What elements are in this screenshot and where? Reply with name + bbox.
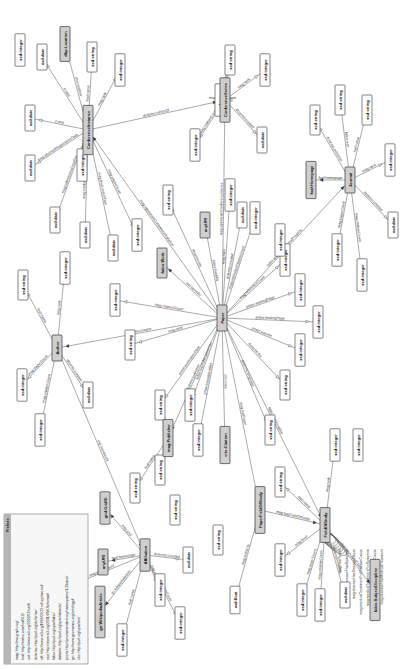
literal-node[interactable]: xsd:integer	[132, 219, 142, 251]
literal-node[interactable]: xsd:integer	[185, 389, 195, 421]
literal-node[interactable]: xsd:date	[388, 212, 398, 238]
literal-node[interactable]: xsd:date	[183, 547, 193, 573]
class-node[interactable]: cito:Citation	[220, 426, 230, 463]
literal-node[interactable]: xsd:integer	[250, 202, 260, 234]
literal-node[interactable]: xsd:integer	[175, 607, 185, 639]
literal-node[interactable]: xsd:string	[18, 270, 28, 300]
node-label: xsd:string	[216, 530, 221, 550]
literal-node[interactable]: xsd:date	[50, 207, 60, 233]
edge-label: fabio:hasURL	[212, 260, 220, 282]
literal-node[interactable]: xsd:date	[237, 202, 247, 228]
class-node[interactable]: Paper	[217, 305, 227, 331]
edge-label: dbo:location	[74, 77, 83, 97]
class-node[interactable]: grid:GridID	[100, 492, 110, 524]
literal-node[interactable]: xsd:integer	[190, 129, 200, 161]
class-node[interactable]: fabio:SubjectDiscipline	[370, 559, 380, 620]
literal-node[interactable]: xsd:integer	[297, 584, 307, 616]
literal-node[interactable]: xsd:string	[130, 473, 140, 503]
literal-node[interactable]: xsd:integer	[260, 54, 270, 86]
arrow-head-icon	[140, 477, 143, 480]
class-node[interactable]: gn:WikipediaArticle	[95, 586, 105, 638]
literal-node[interactable]: xsd:integer	[193, 424, 203, 456]
edge-label: mag:rank	[237, 77, 252, 89]
class-node[interactable]: anyURI	[200, 212, 210, 238]
literal-node[interactable]: xsd:string	[310, 105, 320, 135]
literal-node[interactable]: xsd:date	[25, 155, 35, 181]
edge-label: dcterms:created	[154, 552, 180, 559]
prefix-line: gn: http://www.geonames.org/ontology#	[71, 598, 75, 660]
literal-node[interactable]: xsd:integer	[35, 414, 45, 446]
literal-node[interactable]: xsd:integer	[315, 589, 325, 621]
literal-node[interactable]: xsd:integer	[353, 429, 363, 461]
literal-node[interactable]: xsd:integer	[117, 624, 127, 656]
literal-node[interactable]: xsd:string	[362, 95, 372, 125]
literal-node[interactable]: xsd:integer	[313, 306, 323, 338]
literal-node[interactable]: xsd:string	[265, 415, 275, 445]
literal-node[interactable]: xsd:integer	[115, 54, 125, 86]
class-node[interactable]: foaf:Homepage	[306, 161, 316, 198]
class-node[interactable]: ConferenceSeries	[220, 78, 230, 122]
literal-node[interactable]: xsd:integer	[385, 144, 395, 176]
literal-node[interactable]: xsd:string	[335, 85, 345, 115]
literal-node[interactable]: xsd:integer	[110, 284, 120, 316]
node-label: xsd:integer	[335, 239, 340, 261]
literal-node[interactable]: xsd:integer	[295, 334, 305, 366]
edge-label: mag:hasPaper	[239, 402, 248, 426]
class-node[interactable]: fabio:Work	[157, 248, 167, 278]
literal-node[interactable]: xsd:integer	[225, 179, 235, 211]
literal-node[interactable]: xsd:string	[170, 495, 180, 525]
arrow-head-icon	[80, 384, 83, 387]
literal-node[interactable]: xsd:date	[25, 105, 35, 131]
literal-node[interactable]: xsd:integer	[275, 544, 285, 576]
literal-node[interactable]: xsd:string	[155, 455, 165, 485]
arrow-head-icon	[106, 602, 109, 605]
arrow-head-icon	[306, 320, 309, 323]
literal-node[interactable]: xsd:integer	[332, 234, 342, 266]
node-label: xsd:float	[233, 591, 238, 608]
literal-node[interactable]: xsd:string	[213, 525, 223, 555]
literal-node[interactable]: xsd:string	[225, 45, 235, 75]
literal-node[interactable]: xsd:date	[83, 382, 93, 408]
node-label: xsd:date	[260, 131, 265, 148]
node-label: xsd:date	[391, 216, 396, 233]
prefixes-title: Prefixes	[6, 518, 10, 532]
class-node[interactable]: Affiliation	[140, 539, 150, 571]
literal-node[interactable]: xsd:date	[340, 582, 350, 608]
literal-node[interactable]: xsd:date	[257, 127, 267, 153]
arrow-head-icon	[288, 344, 291, 347]
literal-node[interactable]: xsd:date	[37, 44, 47, 70]
literal-node[interactable]: xsd:string	[275, 467, 285, 497]
class-node[interactable]: FieldOfStudy	[320, 508, 330, 543]
class-node[interactable]: dbp:Location	[60, 27, 70, 62]
literal-node[interactable]: xsd:integer	[295, 274, 305, 306]
literal-node[interactable]: xsd:date	[80, 222, 90, 248]
edge-label: dcterms:created	[235, 108, 255, 130]
literal-node[interactable]: xsd:string	[155, 390, 165, 420]
prefix-line: prism: http://prismstandard.org/namespac…	[65, 576, 69, 660]
class-node[interactable]: ConferenceInstance	[83, 105, 93, 154]
literal-node[interactable]: xsd:integer	[330, 429, 340, 461]
class-node[interactable]: anyURI	[98, 549, 108, 575]
literal-node[interactable]: xsd:integer	[60, 252, 70, 284]
literal-node[interactable]: xsd:integer	[17, 369, 27, 401]
edge-label: mag:appearsInConferenceSeries	[219, 182, 224, 235]
literal-node[interactable]: xsd:date	[108, 235, 118, 261]
node-label: xsd:string	[158, 395, 163, 415]
class-node[interactable]: PaperFieldOfStudy	[255, 487, 265, 534]
literal-node[interactable]: xsd:integer	[15, 34, 25, 66]
edge-label: foaf:name	[36, 308, 47, 324]
class-node[interactable]: Journal	[345, 167, 355, 193]
literal-node[interactable]: xsd:string	[280, 370, 290, 400]
edge-label: mag:hasFieldOfStudy	[276, 510, 311, 522]
literal-node[interactable]: xsd:float	[230, 586, 240, 614]
literal-node[interactable]: xsd:integer	[357, 259, 367, 291]
node-label: xsd:integer	[158, 579, 163, 601]
literal-node[interactable]: xsd:string	[125, 330, 135, 360]
literal-node[interactable]: xsd:string	[163, 185, 173, 215]
literal-node[interactable]: xsd:string	[87, 42, 97, 72]
literal-node[interactable]: xsd:integer	[275, 224, 285, 256]
node-label: xsd:integer	[298, 279, 303, 301]
literal-node[interactable]: xsd:integer	[155, 574, 165, 606]
class-node[interactable]: mag:Publisher	[163, 419, 173, 456]
class-node[interactable]: Author	[52, 335, 62, 361]
